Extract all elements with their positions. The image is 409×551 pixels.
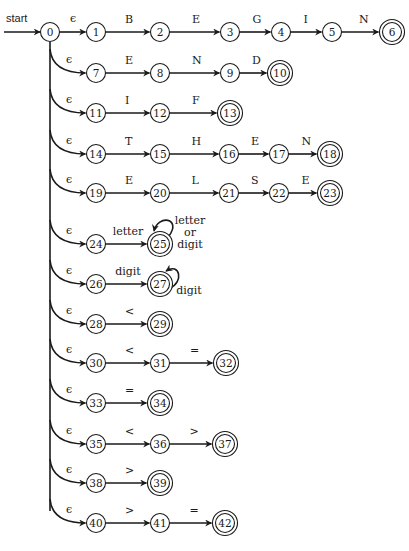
transition-15-16: H [170,135,219,154]
transition-35-36: < [106,425,150,444]
transition-22-23: E [289,174,317,193]
state-label: 11 [89,107,102,119]
state-41: 41 [151,514,170,533]
accepting-state-32: 32 [214,351,239,376]
state-label: 6 [389,26,396,38]
state-label: 0 [47,26,54,38]
state-20: 20 [151,184,170,203]
transition-20-21: L [170,174,219,193]
transition-label: ϵ [70,12,76,25]
transition-9-10: D [240,54,267,73]
state-label: 40 [89,517,102,529]
transition-label: G [253,13,262,26]
transition-0-33: ϵ [50,379,86,403]
transition-label: ϵ [66,304,72,317]
state-label: 27 [153,278,166,290]
transition-3-4: G [240,13,271,32]
state-38: 38 [87,474,106,493]
state-label: 18 [323,148,336,160]
accepting-state-6: 6 [380,20,405,45]
transition-0-24: ϵ [50,220,86,244]
state-label: 37 [218,438,231,450]
state-label: 36 [153,438,167,450]
state-26: 26 [87,275,106,294]
state-2: 2 [151,23,170,42]
state-label: 22 [272,187,285,199]
transition-label: digit [115,265,141,278]
transition-label: B [125,13,133,26]
state-label: 14 [89,148,103,160]
transition-8-9: N [170,54,220,73]
state-label: 4 [278,26,285,38]
state-30: 30 [87,354,106,373]
transition-label: F [192,94,200,107]
transition-16-17: E [239,135,269,154]
state-17: 17 [270,145,289,164]
start-label: start [6,12,27,24]
nfa-diagram: start ϵBEGINϵENDϵIFϵTHENϵELSEϵletterϵdig… [0,0,409,551]
state-19: 19 [87,184,106,203]
transition-label: ϵ [66,134,72,147]
state-label: 3 [227,26,234,38]
state-12: 12 [151,104,170,123]
transition-0-26: ϵ [50,260,86,284]
accepting-state-37: 37 [213,432,238,457]
transition-17-18: N [289,135,317,154]
transition-2-3: E [170,13,220,32]
state-label: 13 [223,107,236,119]
transition-label: ϵ [66,424,72,437]
state-36: 36 [151,435,170,454]
transition-label: ϵ [66,264,72,277]
state-label: 17 [272,148,285,160]
transition-label: = [190,504,199,517]
state-label: 12 [153,107,166,119]
accepting-state-25: 25 [148,232,173,257]
accepting-state-23: 23 [318,181,343,206]
loop-label: digit [177,238,203,251]
state-21: 21 [220,184,239,203]
transition-12-13: F [170,94,217,113]
accepting-state-10: 10 [268,61,293,86]
transition-19-20: E [106,174,150,193]
state-15: 15 [151,145,170,164]
state-14: 14 [87,145,106,164]
state-5: 5 [323,23,342,42]
state-11: 11 [87,104,106,123]
state-40: 40 [87,514,106,533]
state-label: 19 [89,187,102,199]
transition-label: < [125,425,134,438]
transition-26-27: digit [106,265,147,284]
transition-0-7: ϵ [50,49,86,73]
state-label: 10 [273,67,286,79]
transition-label: ϵ [66,93,72,106]
accepting-state-27: 27 [148,272,173,297]
state-label: 7 [93,67,100,79]
transition-label: ϵ [66,173,72,186]
transition-label: > [125,464,134,477]
state-label: 29 [153,318,166,330]
state-7: 7 [87,64,106,83]
transition-label: ϵ [66,383,72,396]
state-8: 8 [151,64,170,83]
transition-11-12: I [106,94,150,113]
state-label: 21 [222,187,235,199]
transition-0-14: ϵ [50,130,86,154]
transition-41-42: = [170,504,212,523]
transition-5-6: N [342,13,379,32]
transition-24-25: letter [106,225,147,244]
state-label: 33 [89,397,102,409]
accepting-state-34: 34 [148,391,173,416]
state-label: 2 [157,26,164,38]
state-24: 24 [87,235,106,254]
transition-label: > [125,504,134,517]
transition-38-39: > [106,464,147,483]
transition-label: ϵ [66,463,72,476]
state-22: 22 [270,184,289,203]
state-label: 9 [227,67,234,79]
state-label: 35 [89,438,102,450]
state-label: 1 [93,26,100,38]
start-arrow: start [4,12,40,32]
state-28: 28 [87,315,106,334]
transition-0-19: ϵ [50,169,86,193]
transition-label: H [192,135,202,148]
